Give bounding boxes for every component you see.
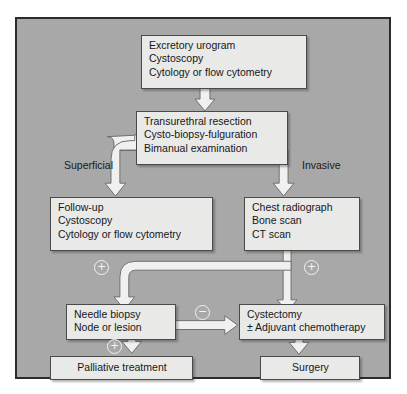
- surgery-label: Surgery: [268, 361, 353, 374]
- needle-biopsy-line-2: Node or lesion: [74, 321, 169, 334]
- resection-line-1: Transurethral resection: [144, 115, 281, 128]
- needle-biopsy-line-1: Needle biopsy: [74, 308, 169, 321]
- plus-sign-bottom-glyph: +: [110, 339, 119, 352]
- initial-workup-line-1: Excretory urogram: [149, 39, 300, 52]
- plus-sign-right-glyph: +: [307, 260, 316, 273]
- resection-line-2: Cysto-biopsy-fulguration: [144, 128, 281, 141]
- plus-sign-right: +: [304, 260, 319, 275]
- resection-line-3: Bimanual examination: [144, 142, 281, 155]
- palliative-treatment-box: Palliative treatment: [50, 356, 193, 380]
- follow-up-line-1: Follow-up: [58, 201, 206, 214]
- cystectomy-box: Cystectomy ± Adjuvant chemotherapy: [239, 304, 385, 340]
- plus-sign-bottom: +: [107, 339, 122, 354]
- follow-up-box: Follow-up Cystoscopy Cytology or flow cy…: [50, 197, 213, 251]
- staging-imaging-box: Chest radiograph Bone scan CT scan: [244, 197, 360, 251]
- initial-workup-line-2: Cystoscopy: [149, 52, 300, 65]
- branch-label-invasive: Invasive: [302, 159, 341, 171]
- follow-up-line-2: Cystoscopy: [58, 214, 206, 227]
- transurethral-resection-box: Transurethral resection Cysto-biopsy-ful…: [136, 111, 288, 165]
- initial-workup-line-3: Cytology or flow cytometry: [149, 66, 300, 79]
- minus-sign-middle-glyph: −: [198, 305, 207, 318]
- follow-up-line-3: Cytology or flow cytometry: [58, 228, 206, 241]
- arrow-staging-spine: [277, 241, 297, 312]
- surgery-box: Surgery: [260, 356, 360, 380]
- plus-sign-left: +: [94, 260, 109, 275]
- initial-workup-box: Excretory urogram Cystoscopy Cytology or…: [141, 35, 307, 89]
- flowchart-figure: Excretory urogram Cystoscopy Cytology or…: [15, 17, 391, 379]
- staging-line-1: Chest radiograph: [252, 201, 353, 214]
- staging-line-2: Bone scan: [252, 214, 353, 227]
- cystectomy-line-2: ± Adjuvant chemotherapy: [247, 321, 378, 334]
- staging-line-3: CT scan: [252, 228, 353, 241]
- arrow-spine-to-needle: [114, 261, 291, 309]
- arrow-workup-to-resection: [195, 88, 215, 111]
- needle-biopsy-box: Needle biopsy Node or lesion: [66, 304, 176, 340]
- plus-sign-left-glyph: +: [97, 260, 106, 273]
- palliative-treatment-label: Palliative treatment: [58, 361, 186, 374]
- cystectomy-line-1: Cystectomy: [247, 308, 378, 321]
- minus-sign-middle: −: [195, 305, 210, 320]
- branch-label-superficial: Superficial: [64, 159, 113, 171]
